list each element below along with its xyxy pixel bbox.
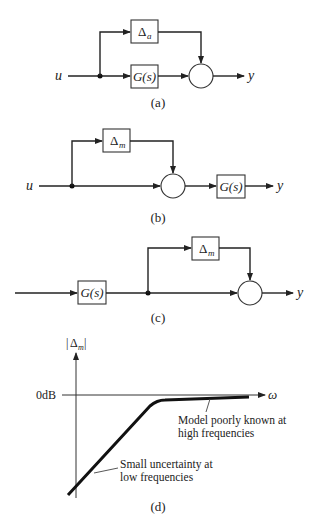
plot-0db-label: 0dB (36, 388, 56, 402)
diagram-c-delta-symbol: Δ (199, 241, 207, 256)
diagram-c-output-multiplicative: G(s) Δ m y (c) (15, 237, 304, 325)
diagram-a-input-label: u (55, 68, 62, 83)
diagram-d-uncertainty-magnitude-plot: | Δ m | 0dB ω Model poorly known at high… (36, 336, 287, 514)
diagram-b-output-label: y (275, 178, 284, 193)
annotation-high-line2: high frequencies (178, 427, 255, 440)
diagram-a-summing-junction (189, 64, 213, 88)
uncertainty-block-diagrams: u Δ a G(s) y (a) u Δ m G(s) y (b) (0, 0, 316, 519)
diagram-b-delta-subscript: m (119, 140, 126, 150)
diagram-a-plant-label: G(s) (133, 69, 156, 84)
diagram-a-caption: (a) (151, 95, 165, 110)
diagram-a-delta-to-sum-wire (158, 32, 201, 63)
diagram-b-summing-junction (161, 174, 185, 198)
annotation-low-line2: low frequencies (120, 471, 194, 484)
annotation-low-leader (94, 468, 118, 473)
diagram-c-summing-junction (238, 281, 262, 305)
diagram-b-delta-symbol: Δ (110, 133, 118, 148)
plot-y-bar-left: | (66, 336, 68, 350)
diagram-b-input-multiplicative: u Δ m G(s) y (b) (26, 129, 284, 225)
diagram-a-delta-symbol: Δ (138, 24, 146, 39)
diagram-b-plant-label: G(s) (219, 179, 242, 194)
annotation-low-line1: Small uncertainty at (120, 458, 213, 471)
diagram-d-caption: (d) (150, 499, 165, 514)
diagram-b-caption: (b) (150, 210, 165, 225)
diagram-c-plant-label: G(s) (80, 285, 103, 300)
diagram-a-branch-wire (100, 32, 130, 76)
diagram-b-branch-wire (72, 141, 102, 186)
diagram-c-branch-wire (148, 248, 191, 293)
plot-y-axis-symbol: Δ (70, 336, 78, 350)
diagram-c-caption: (c) (151, 310, 165, 325)
diagram-a-output-label: y (246, 68, 255, 83)
diagram-c-delta-subscript: m (208, 248, 215, 258)
diagram-a-additive: u Δ a G(s) y (a) (55, 20, 255, 110)
plot-omega-label: ω (268, 387, 277, 402)
plot-y-bar-right: | (84, 336, 86, 350)
diagram-b-delta-to-sum-wire (130, 141, 173, 173)
diagram-a-delta-subscript: a (147, 31, 152, 41)
diagram-c-delta-to-sum-wire (219, 248, 250, 280)
diagram-b-input-label: u (26, 178, 33, 193)
diagram-c-output-label: y (295, 285, 304, 300)
annotation-high-line1: Model poorly known at (178, 414, 287, 427)
annotation-high-leader (206, 399, 210, 412)
